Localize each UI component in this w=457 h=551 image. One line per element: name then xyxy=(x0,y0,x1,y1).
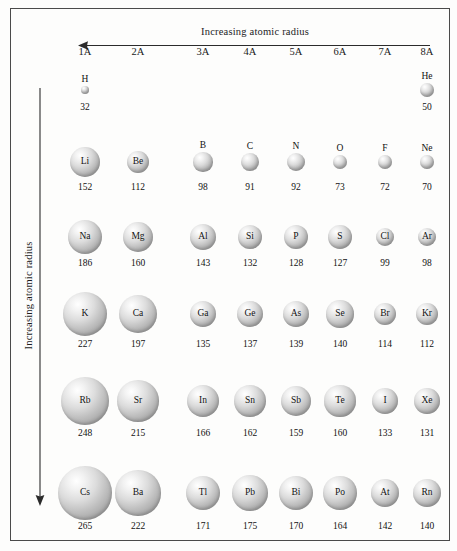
radius-value-ca: 197 xyxy=(103,339,173,349)
radius-value-be: 112 xyxy=(103,182,173,192)
element-symbol-be: Be xyxy=(133,157,144,167)
element-symbol-sr: Sr xyxy=(134,396,142,406)
element-symbol-as: As xyxy=(291,309,302,319)
element-sphere-pb[interactable]: Pb xyxy=(232,475,268,511)
element-sphere-n[interactable] xyxy=(287,153,305,171)
element-symbol-cl: Cl xyxy=(381,232,390,242)
element-sphere-xe[interactable]: Xe xyxy=(414,388,439,413)
element-symbol-po: Po xyxy=(335,488,345,498)
element-symbol-ga: Ga xyxy=(197,309,208,319)
element-symbol-kr: Kr xyxy=(422,309,432,319)
group-header-5a: 5A xyxy=(276,46,316,57)
radius-value-xe: 131 xyxy=(392,428,457,438)
element-symbol-se: Se xyxy=(335,309,345,319)
element-sphere-i[interactable]: I xyxy=(372,388,398,414)
group-header-3a: 3A xyxy=(183,46,223,57)
element-sphere-sn[interactable]: Sn xyxy=(234,385,265,416)
element-symbol-br: Br xyxy=(380,309,390,319)
element-symbol-sn: Sn xyxy=(245,396,255,406)
atomic-radius-figure: Increasing atomic radius Increasing atom… xyxy=(0,0,457,551)
element-sphere-br[interactable]: Br xyxy=(374,303,396,325)
element-symbol-in: In xyxy=(199,396,207,406)
element-symbol-i: I xyxy=(383,396,386,406)
element-sphere-s[interactable]: S xyxy=(328,225,352,249)
radius-value-mg: 160 xyxy=(103,258,173,268)
element-symbol-ca: Ca xyxy=(133,309,144,319)
group-header-6a: 6A xyxy=(320,46,360,57)
group-header-4a: 4A xyxy=(230,46,270,57)
radius-value-ar: 98 xyxy=(392,258,457,268)
radius-value-h: 32 xyxy=(50,102,120,112)
element-symbol-he: He xyxy=(392,71,457,81)
element-sphere-c[interactable] xyxy=(241,153,259,171)
element-sphere-kr[interactable]: Kr xyxy=(416,303,438,325)
element-symbol-al: Al xyxy=(198,232,208,242)
element-sphere-ca[interactable]: Ca xyxy=(119,295,157,333)
element-sphere-li[interactable]: Li xyxy=(70,147,100,177)
increasing-radius-down-arrow-icon xyxy=(34,88,46,506)
element-sphere-te[interactable]: Te xyxy=(324,385,355,416)
element-sphere-f[interactable] xyxy=(378,155,392,169)
group-header-1a: 1A xyxy=(65,46,105,57)
element-symbol-at: At xyxy=(380,488,390,498)
element-symbol-xe: Xe xyxy=(421,396,432,406)
element-sphere-mg[interactable]: Mg xyxy=(123,222,153,252)
element-sphere-sr[interactable]: Sr xyxy=(117,380,159,422)
group-header-8a: 8A xyxy=(407,46,447,57)
element-symbol-ba: Ba xyxy=(133,488,144,498)
element-symbol-p: P xyxy=(293,232,298,242)
element-symbol-si: Si xyxy=(246,232,254,242)
element-symbol-h: H xyxy=(50,74,120,84)
top-axis-caption: Increasing atomic radius xyxy=(80,26,430,37)
element-symbol-sb: Sb xyxy=(291,396,301,406)
radius-value-rn: 140 xyxy=(392,521,457,531)
element-symbol-k: K xyxy=(82,309,89,319)
element-sphere-he[interactable] xyxy=(420,83,434,97)
element-symbol-cs: Cs xyxy=(80,488,90,498)
radius-value-kr: 112 xyxy=(392,339,457,349)
element-sphere-be[interactable]: Be xyxy=(127,151,149,173)
element-symbol-pb: Pb xyxy=(245,488,255,498)
figure-border xyxy=(10,8,450,541)
element-sphere-se[interactable]: Se xyxy=(326,300,353,327)
group-header-7a: 7A xyxy=(365,46,405,57)
element-sphere-in[interactable]: In xyxy=(187,385,219,417)
element-symbol-li: Li xyxy=(81,157,89,167)
element-symbol-s: S xyxy=(337,232,342,242)
element-symbol-rb: Rb xyxy=(79,396,90,406)
element-sphere-rb[interactable]: Rb xyxy=(61,377,109,425)
element-symbol-bi: Bi xyxy=(291,488,300,498)
radius-value-he: 50 xyxy=(392,102,457,112)
radius-value-ne: 70 xyxy=(392,182,457,192)
element-symbol-ar: Ar xyxy=(422,232,432,242)
element-symbol-mg: Mg xyxy=(131,232,144,242)
element-sphere-ba[interactable]: Ba xyxy=(115,470,160,515)
element-sphere-cs[interactable]: Cs xyxy=(58,466,112,520)
element-sphere-po[interactable]: Po xyxy=(323,476,356,509)
element-symbol-ne: Ne xyxy=(392,143,457,153)
element-symbol-ge: Ge xyxy=(244,309,255,319)
radius-value-sr: 215 xyxy=(103,428,173,438)
group-header-2a: 2A xyxy=(118,46,158,57)
left-axis-caption: Increasing atomic radius xyxy=(23,206,34,386)
radius-value-ba: 222 xyxy=(103,521,173,531)
element-sphere-b[interactable] xyxy=(193,152,212,171)
element-sphere-ne[interactable] xyxy=(420,155,434,169)
element-symbol-rn: Rn xyxy=(421,488,432,498)
element-symbol-te: Te xyxy=(335,396,344,406)
element-sphere-ga[interactable]: Ga xyxy=(190,301,216,327)
element-symbol-tl: Tl xyxy=(199,488,207,498)
element-sphere-k[interactable]: K xyxy=(63,292,107,336)
element-symbol-na: Na xyxy=(79,232,90,242)
element-sphere-p[interactable]: P xyxy=(284,225,308,249)
